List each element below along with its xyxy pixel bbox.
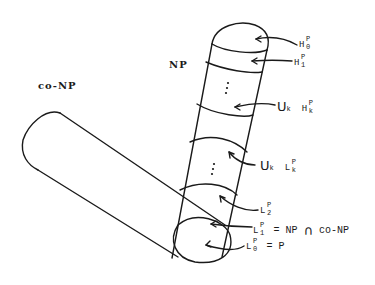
label-union-lk: Uk LPk — [260, 159, 297, 173]
co-np-label: co-NP — [38, 81, 77, 91]
label-l0: LP0 = P — [246, 242, 284, 252]
label-h0: HP0 — [299, 40, 311, 50]
label-l2: LP2 — [260, 206, 272, 216]
ellipsis-dots — [211, 82, 229, 175]
np-label: NP — [169, 60, 188, 70]
label-arrows — [206, 36, 297, 250]
complexity-cylinders-drawing — [0, 0, 375, 285]
label-l1: LP1 = NP ∩co-NP — [253, 224, 349, 237]
label-h1: HP1 — [294, 58, 306, 68]
label-union-hk: Uk HPk — [277, 100, 314, 114]
